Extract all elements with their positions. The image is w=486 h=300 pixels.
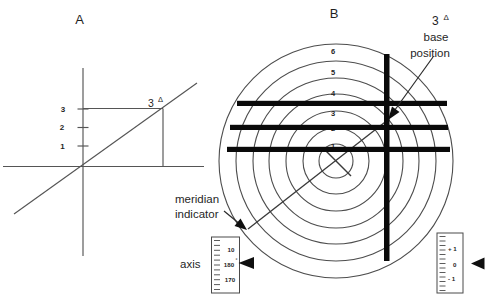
level-scale-pointer-icon: [471, 258, 485, 270]
meridian-label-line2: indicator: [175, 208, 219, 220]
a-tick-label-2: 2: [60, 123, 65, 132]
meridian-scale-degree-icon: °: [236, 258, 238, 263]
b-point-label: 3: [432, 14, 439, 28]
a-point-label: 3: [148, 97, 154, 109]
figure-canvas: A 3 2 1 3 Δ B 6 5 4 3: [0, 0, 486, 300]
b-point-label-superscript: Δ: [444, 13, 450, 22]
meridian-indicator-line: [248, 119, 389, 229]
base-position-label-line2: position: [410, 47, 450, 59]
a-tick-label-3: 3: [61, 105, 66, 114]
level-scale-top: + 1: [448, 245, 457, 252]
diagram-svg: A 3 2 1 3 Δ B 6 5 4 3: [0, 0, 486, 300]
axis-label: axis: [180, 258, 201, 270]
base-position-label-line1: base: [424, 31, 449, 43]
ring-number-6: 6: [331, 47, 335, 56]
horizontal-bar-bottom: [227, 147, 450, 152]
ring-number-5: 5: [331, 68, 335, 77]
ring-number-3: 3: [331, 109, 335, 118]
a-tick-label-1: 1: [60, 142, 65, 151]
level-scale-box: + 1 0 - 1: [437, 233, 485, 293]
lens-bars: [227, 54, 450, 261]
panel-b: B 6 5 4 3 2 1: [175, 6, 485, 293]
meridian-scale-middle: 180: [224, 261, 235, 268]
level-scale-frame: [437, 233, 463, 293]
horizontal-bar-top: [237, 101, 447, 106]
panel-a-label: A: [75, 12, 84, 27]
ring-number-4: 4: [331, 89, 336, 98]
meridian-label-line1: meridian: [175, 193, 219, 205]
meridian-scale-top: 10: [228, 246, 235, 253]
ring-numbers: 6 5 4 3 2 1: [331, 47, 336, 151]
meridian-scale-box: axis 10 180 ° 170: [180, 237, 254, 293]
panel-a: A 3 2 1 3 Δ: [3, 12, 204, 256]
vertical-bar: [384, 54, 390, 261]
level-scale-middle: 0: [453, 261, 457, 268]
meridian-indicator-callout: meridian indicator: [175, 193, 247, 230]
base-position-arrowhead-icon: [388, 107, 400, 121]
horizontal-bar-middle: [230, 125, 448, 130]
a-diagonal-line: [14, 83, 197, 214]
level-scale-bottom: - 1: [448, 275, 456, 282]
center-cross-stroke: [324, 149, 351, 176]
panel-b-label: B: [330, 6, 339, 21]
a-point-label-superscript: Δ: [158, 95, 163, 104]
meridian-scale-pointer-icon: [239, 257, 255, 269]
meridian-scale-bottom: 170: [225, 276, 236, 283]
